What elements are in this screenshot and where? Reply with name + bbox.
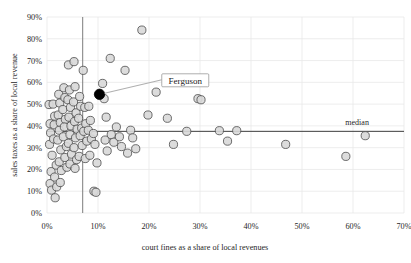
ferguson-point [94, 89, 104, 99]
data-point [71, 164, 79, 172]
data-point [48, 151, 56, 159]
data-point [215, 127, 223, 135]
data-point [169, 140, 177, 148]
data-point [93, 159, 101, 167]
x-tick-label: 10% [90, 222, 105, 231]
data-point [71, 83, 79, 91]
data-point [123, 149, 131, 157]
y-tick-label: 20% [27, 165, 42, 174]
y-tick-label: 10% [27, 187, 42, 196]
data-point [70, 144, 78, 152]
data-point [89, 129, 97, 137]
x-tick-label: 70% [396, 222, 411, 231]
data-point [91, 140, 99, 148]
x-axis-title: court fines as a share of local revenues [142, 243, 269, 252]
data-point [79, 66, 87, 74]
data-point [117, 142, 125, 150]
data-point [152, 88, 160, 96]
x-tick-label: 0% [42, 222, 53, 231]
data-point [112, 123, 120, 131]
median-line-label: median [345, 118, 369, 127]
data-point [132, 145, 140, 153]
data-point [56, 178, 64, 186]
data-point [233, 127, 241, 135]
data-point [121, 66, 129, 74]
scatter-plot-figure: Ferguson 0%10%20%30%40%50%60%70% 0%10%20… [0, 0, 411, 263]
data-point [51, 194, 59, 202]
x-tick-label: 50% [294, 222, 309, 231]
data-point [138, 26, 146, 34]
y-tick-label: 70% [27, 57, 42, 66]
data-point [85, 102, 93, 110]
data-point [70, 58, 78, 66]
data-point [282, 140, 290, 148]
data-point [223, 137, 231, 145]
data-point [86, 151, 94, 159]
data-point [144, 111, 152, 119]
data-point [107, 131, 115, 139]
data-point [59, 105, 67, 113]
data-point [115, 133, 123, 141]
data-point [183, 127, 191, 135]
chart-canvas: Ferguson 0%10%20%30%40%50%60%70% 0%10%20… [0, 0, 411, 263]
callout-label-text: Ferguson [169, 76, 203, 86]
data-point [361, 132, 369, 140]
data-point [75, 114, 83, 122]
data-point [98, 79, 106, 87]
y-tick-label: 0% [31, 209, 42, 218]
data-point [129, 134, 137, 142]
x-tick-label: 40% [243, 222, 258, 231]
data-point [102, 113, 110, 121]
data-point [342, 152, 350, 160]
x-tick-label: 20% [141, 222, 156, 231]
y-tick-label: 90% [27, 13, 42, 22]
data-point [163, 114, 171, 122]
x-tick-label: 60% [345, 222, 360, 231]
y-tick-label: 30% [27, 144, 42, 153]
data-point [197, 96, 205, 104]
data-point [92, 188, 100, 196]
y-tick-label: 80% [27, 35, 42, 44]
data-point [106, 54, 114, 62]
ferguson-data-point [94, 89, 104, 99]
y-tick-label: 60% [27, 78, 42, 87]
data-point [76, 92, 84, 100]
y-tick-label: 50% [27, 100, 42, 109]
median-label-text: median [345, 118, 369, 127]
data-point [103, 147, 111, 155]
data-point [86, 116, 94, 124]
y-axis-title: sales taxes as a share of local revenue [10, 53, 19, 177]
data-point [127, 126, 135, 134]
x-tick-label: 30% [192, 222, 207, 231]
y-tick-label: 40% [27, 122, 42, 131]
